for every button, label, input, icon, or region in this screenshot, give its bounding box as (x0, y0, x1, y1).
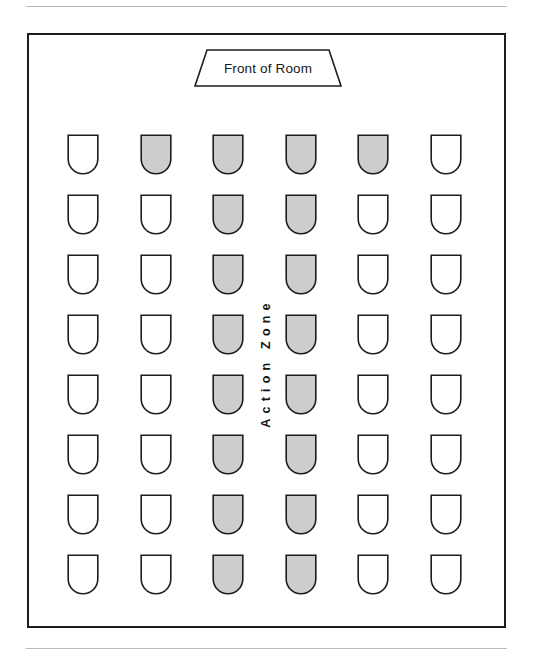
seat-r5-c1[interactable] (66, 373, 100, 415)
seat-r5-c4[interactable] (284, 373, 318, 415)
seat-r7-c3[interactable] (211, 493, 245, 535)
seat-r3-c6[interactable] (429, 253, 463, 295)
seat-r6-c1[interactable] (66, 433, 100, 475)
seat-r4-c4[interactable] (284, 313, 318, 355)
seat-r1-c4[interactable] (284, 133, 318, 175)
seat-r2-c3[interactable] (211, 193, 245, 235)
seat-r3-c2[interactable] (139, 253, 173, 295)
seat-r2-c5[interactable] (356, 193, 390, 235)
action-zone-text: Action Zone (259, 298, 273, 427)
seat-r7-c1[interactable] (66, 493, 100, 535)
seat-r5-c2[interactable] (139, 373, 173, 415)
seat-r6-c2[interactable] (139, 433, 173, 475)
seat-r8-c4[interactable] (284, 553, 318, 595)
seat-r7-c6[interactable] (429, 493, 463, 535)
seat-r1-c5[interactable] (356, 133, 390, 175)
seat-r4-c1[interactable] (66, 313, 100, 355)
seat-r1-c3[interactable] (211, 133, 245, 175)
seat-r8-c1[interactable] (66, 553, 100, 595)
seat-r2-c4[interactable] (284, 193, 318, 235)
seat-r7-c5[interactable] (356, 493, 390, 535)
seat-r4-c5[interactable] (356, 313, 390, 355)
seat-r7-c4[interactable] (284, 493, 318, 535)
seat-r3-c1[interactable] (66, 253, 100, 295)
seat-r1-c6[interactable] (429, 133, 463, 175)
seat-r6-c3[interactable] (211, 433, 245, 475)
seat-r5-c5[interactable] (356, 373, 390, 415)
seat-r3-c5[interactable] (356, 253, 390, 295)
seat-r1-c1[interactable] (66, 133, 100, 175)
seat-r6-c6[interactable] (429, 433, 463, 475)
seat-r5-c3[interactable] (211, 373, 245, 415)
seat-r4-c6[interactable] (429, 313, 463, 355)
seat-r2-c2[interactable] (139, 193, 173, 235)
seat-r2-c6[interactable] (429, 193, 463, 235)
seat-r8-c2[interactable] (139, 553, 173, 595)
seat-r4-c2[interactable] (139, 313, 173, 355)
seat-r5-c6[interactable] (429, 373, 463, 415)
seat-r7-c2[interactable] (139, 493, 173, 535)
seat-r4-c3[interactable] (211, 313, 245, 355)
seat-r3-c4[interactable] (284, 253, 318, 295)
page-rule-bottom (26, 648, 507, 649)
seat-r8-c6[interactable] (429, 553, 463, 595)
seat-r6-c4[interactable] (284, 433, 318, 475)
action-zone-label: Action Zone (252, 255, 280, 470)
seat-r3-c3[interactable] (211, 253, 245, 295)
seat-r8-c5[interactable] (356, 553, 390, 595)
seat-r2-c1[interactable] (66, 193, 100, 235)
seat-r6-c5[interactable] (356, 433, 390, 475)
seat-r8-c3[interactable] (211, 553, 245, 595)
seat-r1-c2[interactable] (139, 133, 173, 175)
